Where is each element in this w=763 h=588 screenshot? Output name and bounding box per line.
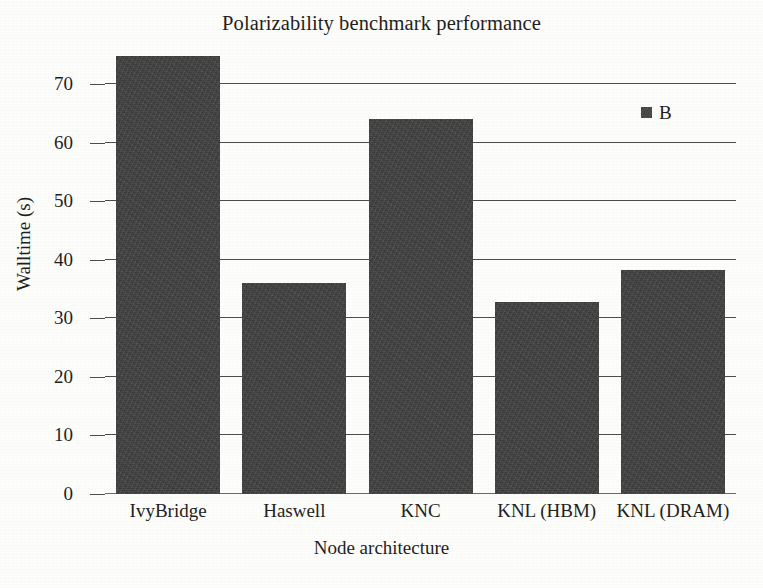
bar bbox=[621, 270, 725, 494]
y-tick-label: 10 bbox=[54, 425, 73, 444]
y-tick-mark bbox=[90, 318, 105, 319]
legend-swatch-b bbox=[641, 107, 652, 118]
y-tick-label: 30 bbox=[54, 308, 73, 327]
y-tick-mark bbox=[90, 494, 105, 495]
bar bbox=[116, 56, 220, 494]
x-tick-label: KNL (DRAM) bbox=[583, 500, 763, 522]
x-axis-title: Node architecture bbox=[0, 537, 763, 559]
y-tick-label: 50 bbox=[54, 191, 73, 210]
y-tick-label: 0 bbox=[64, 484, 74, 503]
y-tick-label: 20 bbox=[54, 367, 73, 386]
y-tick-label: 40 bbox=[54, 250, 73, 269]
bar bbox=[242, 283, 346, 494]
y-tick-mark bbox=[90, 201, 105, 202]
y-tick-label: 60 bbox=[54, 133, 73, 152]
bar bbox=[495, 302, 599, 494]
bar bbox=[369, 119, 473, 494]
figure-canvas: Polarizability benchmark performance 010… bbox=[0, 0, 763, 588]
y-tick-mark bbox=[90, 260, 105, 261]
y-tick-mark bbox=[90, 84, 105, 85]
legend: B bbox=[641, 103, 672, 122]
y-tick-mark bbox=[90, 435, 105, 436]
y-tick-mark bbox=[90, 143, 105, 144]
y-axis-title: Walltime (s) bbox=[13, 114, 35, 374]
y-tick-label: 70 bbox=[54, 74, 73, 93]
y-tick-mark bbox=[90, 377, 105, 378]
legend-label-b: B bbox=[659, 103, 672, 122]
